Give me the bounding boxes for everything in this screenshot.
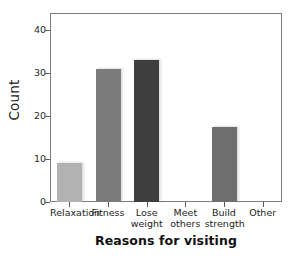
y-axis-tick-label: 10 [24, 154, 46, 164]
x-axis-category-label: Fitness [89, 208, 128, 219]
y-axis-tick-label: 0 [24, 197, 46, 207]
y-axis-title: Count [6, 60, 22, 140]
y-axis-tick-mark [45, 159, 50, 160]
x-axis-category-label-line2: others [166, 219, 205, 230]
x-axis-category-label: Other [243, 208, 282, 219]
x-axis-category-label-line2: weight [127, 219, 166, 230]
x-axis-category-label: Relaxation [50, 208, 89, 219]
y-axis-tick-mark [45, 202, 50, 203]
y-axis-tick-label: 30 [24, 68, 46, 78]
bar-chart-figure: Count 010203040 Reasons for visiting Rel… [0, 0, 294, 262]
y-axis-tick-label: 40 [24, 25, 46, 35]
x-axis-category-label-line2: strength [205, 219, 244, 230]
x-axis-category-label: Buildstrength [205, 208, 244, 229]
bar-fitness [96, 69, 121, 202]
y-axis-tick-mark [45, 30, 50, 31]
x-axis-title: Reasons for visiting [50, 233, 282, 248]
y-axis-tick-labels: 010203040 [22, 0, 46, 262]
y-axis-tick-mark [45, 116, 50, 117]
bar-lose-weight [134, 60, 159, 202]
bar-build-strength [212, 127, 237, 202]
y-axis-tick-mark [45, 73, 50, 74]
x-axis-category-label: Loseweight [127, 208, 166, 229]
bars-layer [50, 13, 282, 202]
y-axis-tick-label: 20 [24, 111, 46, 121]
bar-relaxation [57, 163, 82, 202]
x-axis-category-label: Meetothers [166, 208, 205, 229]
